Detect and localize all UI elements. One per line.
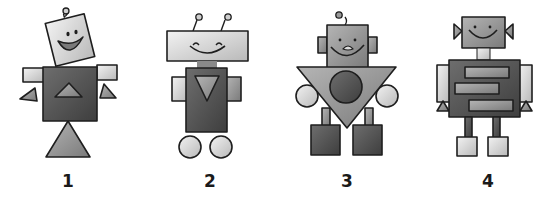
robot-3 bbox=[296, 12, 398, 155]
robot-2 bbox=[167, 14, 248, 158]
robot-4-bar-2 bbox=[455, 83, 499, 94]
robot-4-bar-3 bbox=[469, 100, 513, 111]
robot-1-base-triangle bbox=[46, 121, 90, 157]
robot-4-ear-left bbox=[454, 24, 462, 39]
robot-4-label: 4 bbox=[473, 171, 503, 191]
robot-3-antenna bbox=[336, 12, 342, 18]
robot-4-foot-left bbox=[457, 137, 477, 156]
robot-1-left-hand bbox=[20, 88, 37, 101]
robot-4-leg-right bbox=[493, 117, 500, 138]
robot-3-body-circle bbox=[330, 71, 362, 103]
robot-2-wheel-right bbox=[210, 136, 232, 158]
robot-4-ear-right bbox=[505, 24, 513, 39]
robot-1 bbox=[20, 8, 117, 157]
robot-4-foot-right bbox=[488, 137, 508, 156]
robot-4-head bbox=[462, 17, 505, 48]
robot-4-arm-right bbox=[519, 65, 532, 102]
robot-1-left-arm bbox=[23, 68, 44, 82]
robot-2-right-arm bbox=[226, 77, 241, 101]
robot-3-foot-right bbox=[353, 125, 382, 155]
robot-1-head bbox=[45, 14, 94, 66]
robot-1-antenna bbox=[63, 8, 69, 14]
robot-3-leg-left bbox=[322, 108, 330, 126]
robot-2-wheel-left bbox=[179, 136, 201, 158]
robot-2-antenna-right bbox=[225, 14, 231, 20]
robot-4 bbox=[437, 17, 532, 156]
robot-3-leg-right bbox=[365, 108, 373, 126]
robot-4-bar-1 bbox=[465, 67, 509, 78]
robot-2-antenna-left bbox=[196, 14, 202, 20]
robot-4-neck bbox=[477, 48, 490, 60]
robot-2-label: 2 bbox=[195, 171, 225, 191]
robot-3-ear-right bbox=[368, 37, 377, 53]
robot-2-head bbox=[167, 31, 248, 61]
robot-1-right-hand bbox=[100, 84, 116, 98]
robot-4-arm-left bbox=[437, 65, 450, 102]
robot-3-label: 3 bbox=[332, 171, 362, 191]
robot-3-foot-left bbox=[311, 125, 340, 155]
robot-1-label: 1 bbox=[53, 171, 83, 191]
robot-1-right-arm bbox=[97, 65, 117, 80]
robot-4-leg-left bbox=[465, 117, 472, 138]
robot-2-neck bbox=[197, 61, 217, 68]
robot-3-ear-left bbox=[318, 37, 327, 53]
